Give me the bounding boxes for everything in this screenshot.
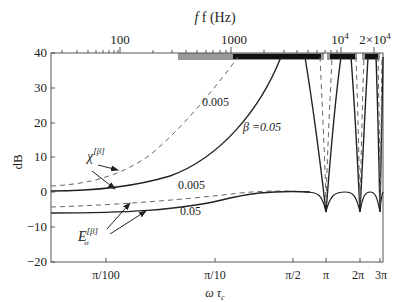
top-axis-title: f f (Hz) (194, 10, 236, 26)
chi-label: χ[β] (85, 146, 105, 164)
y-tick-40: 40 (34, 45, 47, 60)
annotation-chi-0005: 0.005 (202, 95, 229, 109)
top-tick-100: 100 (110, 32, 130, 47)
annotation-chi-005: β =0.05 (242, 120, 281, 134)
x-tick-pi: π (323, 268, 329, 282)
annotation-arrows (92, 165, 146, 234)
y-tick-30: 30 (34, 80, 47, 95)
chi-cusp-solid-1 (305, 57, 341, 212)
x-tick-3pi: 3π (375, 268, 387, 282)
x-axis (106, 258, 380, 262)
chi-cusp-dashed-1 (320, 57, 332, 205)
annotation-e-005: 0.05 (180, 204, 201, 218)
frequency-bands (178, 53, 380, 60)
y-tick-0: 0 (41, 184, 48, 199)
annotation-e-0005: 0.005 (178, 178, 205, 192)
top-tick-1e4: 104 (331, 31, 349, 47)
y-axis (51, 53, 55, 262)
x-tick-pi-2: π/2 (285, 268, 300, 282)
chart: 40 30 20 10 0 −10 −20 dB π/100 π/10 π/2 … (0, 0, 396, 302)
chi-cusp-solid-2 (351, 57, 368, 212)
top-tick-2e4: 2×104 (359, 31, 391, 47)
top-tick-1000: 1000 (221, 32, 247, 47)
x-tick-pi-10: π/10 (204, 268, 225, 282)
y-tick-m20: −20 (27, 254, 47, 269)
chi-0005-curve (51, 57, 238, 186)
e-label: E[β]si (77, 226, 99, 247)
y-tick-10: 10 (34, 149, 47, 164)
y-tick-m10: −10 (27, 219, 47, 234)
curves (51, 57, 383, 213)
x-axis-title: ω τc (205, 286, 225, 302)
y-tick-20: 20 (34, 115, 47, 130)
top-axis (62, 47, 374, 53)
e-dips (305, 192, 383, 212)
x-tick-2pi: 2π (352, 268, 364, 282)
y-axis-title: dB (10, 154, 25, 170)
x-tick-pi-100: π/100 (92, 268, 119, 282)
chi-cusp-dashed-2 (356, 57, 364, 205)
